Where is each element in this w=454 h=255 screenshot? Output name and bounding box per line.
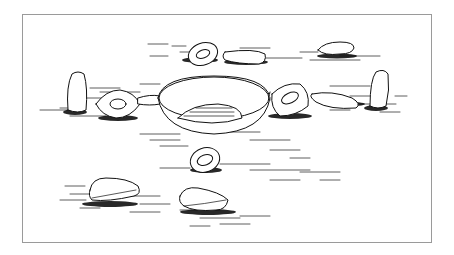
standing-stone-left [68, 72, 87, 112]
stone-circle-illustration [0, 0, 454, 255]
ring-stone-right [272, 84, 309, 116]
ring-stone-top [185, 39, 221, 70]
central-bowl [158, 76, 270, 134]
ring-stone-left [96, 90, 140, 118]
flat-stone-right [311, 93, 359, 109]
flat-stone-top-right [318, 42, 354, 55]
standing-stone-right [370, 70, 389, 108]
flat-stone-bottom-middle [180, 188, 229, 211]
connector-stone-right [269, 92, 270, 100]
connector-stone-left [138, 95, 160, 105]
